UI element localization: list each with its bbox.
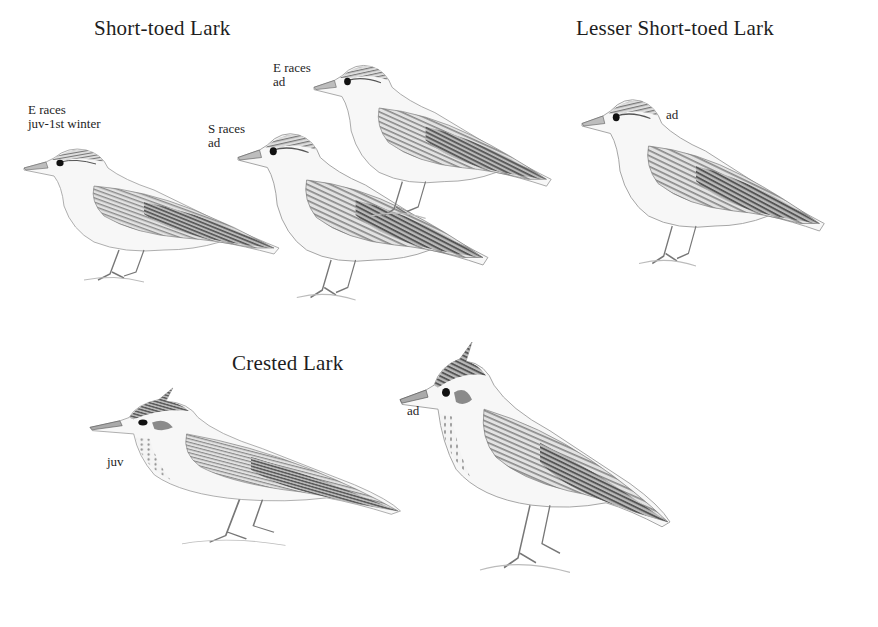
species-title-crested-lark: Crested Lark [232, 351, 343, 376]
label-line: ad [273, 75, 311, 89]
bird-short-toed-lark-e-races-juv [24, 149, 279, 282]
illustration-plate [0, 0, 878, 627]
label-line: ad [208, 136, 245, 150]
figure-label-short-toed-e-juv: E races juv-1st winter [28, 103, 101, 131]
figure-label-lesser-short-toed-ad: ad [666, 108, 678, 122]
species-title-lesser-short-toed-lark: Lesser Short-toed Lark [576, 16, 774, 41]
bird-crested-lark-ad [400, 342, 670, 572]
label-line: S races [208, 122, 245, 136]
bird-crested-lark-juv [90, 388, 401, 545]
label-line: juv [107, 455, 124, 469]
label-line: ad [666, 108, 678, 122]
figure-label-crested-ad: ad [407, 404, 419, 418]
figure-label-short-toed-e-ad: E races ad [273, 61, 311, 89]
label-line: ad [407, 404, 419, 418]
figure-label-crested-juv: juv [107, 455, 124, 469]
figure-label-short-toed-s-ad: S races ad [208, 122, 245, 150]
label-line: E races [273, 61, 311, 75]
species-title-short-toed-lark: Short-toed Lark [94, 16, 231, 41]
label-line: juv-1st winter [28, 117, 101, 131]
bird-lesser-short-toed-lark-ad [582, 100, 824, 266]
label-line: E races [28, 103, 101, 117]
